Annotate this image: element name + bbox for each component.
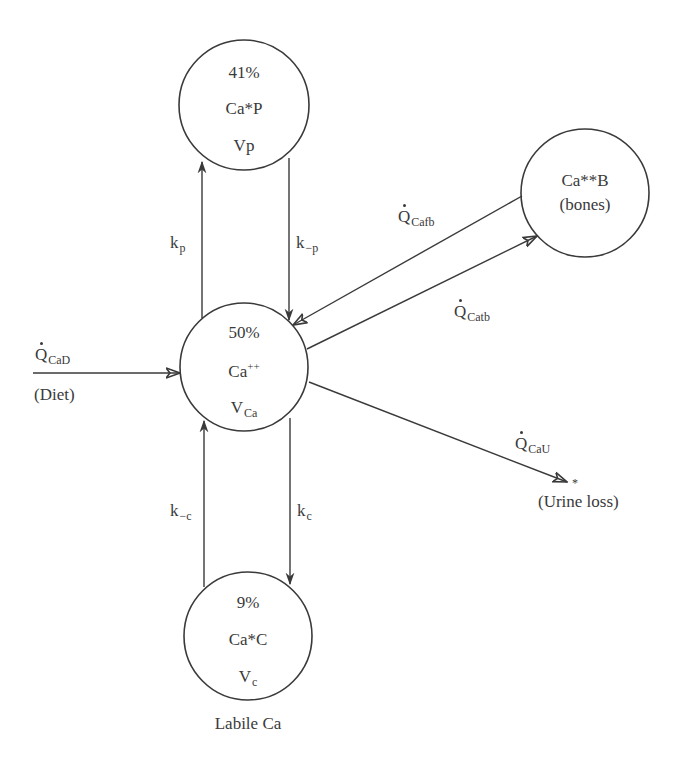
urine-flow-label-sub: CaU	[528, 442, 550, 456]
k-minus-p-label: k−p	[296, 234, 318, 254]
central-percent: 50%	[228, 324, 259, 341]
k-minus-c-label-base: k	[170, 501, 179, 520]
central-species: Ca++	[228, 361, 259, 380]
k-minus-p-label-base: k	[296, 233, 305, 252]
kc-label: kc	[297, 502, 312, 522]
plasma-percent: 41%	[228, 64, 259, 81]
plasma-species: Ca*P	[226, 100, 263, 117]
kp-label: kp	[170, 234, 186, 254]
bones-note: (bones)	[560, 196, 611, 213]
diagram-canvas	[0, 0, 681, 759]
cellular-species: Ca*C	[229, 631, 268, 648]
kc-label-base: k	[297, 501, 306, 520]
kc-label-sub: c	[307, 509, 312, 523]
k-minus-p-label-sub: −p	[306, 241, 319, 255]
bone-formation-label: QCafb	[398, 208, 435, 228]
urine-flow-arrow	[309, 382, 567, 482]
k-minus-c-label: k−c	[170, 502, 192, 522]
bone-resorption-label: QCatb	[454, 303, 490, 323]
urine-caption: (Urine loss)	[538, 493, 619, 510]
bones-species: Ca**B	[561, 172, 608, 189]
urine-flow-label: QCaU	[515, 435, 550, 455]
bone-resorption-label-base: Q	[454, 303, 466, 320]
urine-flow-label-base: Q	[515, 435, 527, 452]
kp-label-sub: p	[180, 241, 186, 255]
kp-label-base: k	[170, 233, 179, 252]
central-species-base: Ca	[228, 362, 247, 381]
diet-caption: (Diet)	[34, 386, 75, 403]
cellular-volume-sub: c	[252, 675, 257, 689]
bone-formation-label-base: Q	[398, 208, 410, 225]
bones-compartment-circle	[521, 129, 649, 257]
cellular-volume-base: V	[239, 667, 251, 686]
diet-flow-label: QCaD	[35, 346, 70, 366]
central-volume: VCa	[231, 399, 258, 419]
central-species-charge: ++	[247, 360, 259, 372]
diet-flow-label-base: Q	[35, 346, 47, 363]
plasma-volume: Vp	[234, 137, 255, 154]
central-volume-sub: Ca	[244, 406, 257, 420]
cellular-volume: Vc	[239, 668, 258, 688]
k-minus-c-label-sub: −c	[180, 509, 192, 523]
cellular-percent: 9%	[237, 594, 260, 611]
labile-ca-caption: Labile Ca	[215, 715, 282, 732]
urine-sink-marker: *	[572, 477, 578, 489]
bone-resorption-label-sub: Catb	[467, 310, 490, 324]
bone-formation-label-sub: Cafb	[411, 215, 434, 229]
central-volume-base: V	[231, 398, 243, 417]
diet-flow-label-sub: CaD	[48, 353, 70, 367]
